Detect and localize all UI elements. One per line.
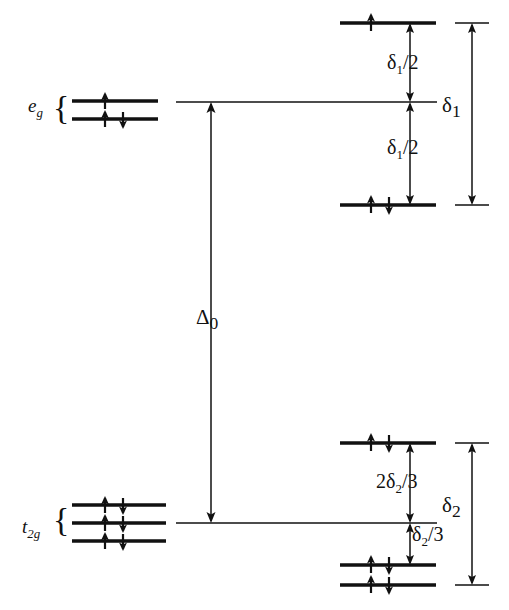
t2g-brace: { — [53, 503, 69, 537]
delta1-half-bottom-label: δ1/2 — [387, 137, 419, 161]
energy-level-diagram: eg { t2g { Δ0 δ1/2 δ1/2 2δ2/3 δ2/3 δ1 δ2 — [0, 0, 509, 610]
delta-o-label: Δ0 — [196, 307, 218, 333]
lower-split-bottom-level — [340, 575, 436, 595]
eg-level-group — [72, 92, 158, 129]
two-delta2-thirds-label: 2δ2/3 — [376, 471, 418, 495]
upper-split-bottom-level — [340, 195, 436, 215]
t2g-level-group — [72, 496, 166, 551]
eg-brace: { — [53, 91, 69, 125]
delta1-total-label: δ1 — [442, 95, 461, 121]
delta2-third-label: δ2/3 — [412, 524, 444, 548]
diagram-canvas — [0, 0, 509, 610]
upper-split-top-level — [340, 13, 436, 31]
lower-split-top-level — [340, 433, 436, 453]
lower-split-mid-level — [340, 555, 436, 575]
eg-term-label: eg — [28, 96, 43, 120]
delta1-half-top-label: δ1/2 — [387, 52, 419, 76]
t2g-term-label: t2g — [22, 517, 40, 541]
delta2-total-label: δ2 — [442, 495, 461, 521]
